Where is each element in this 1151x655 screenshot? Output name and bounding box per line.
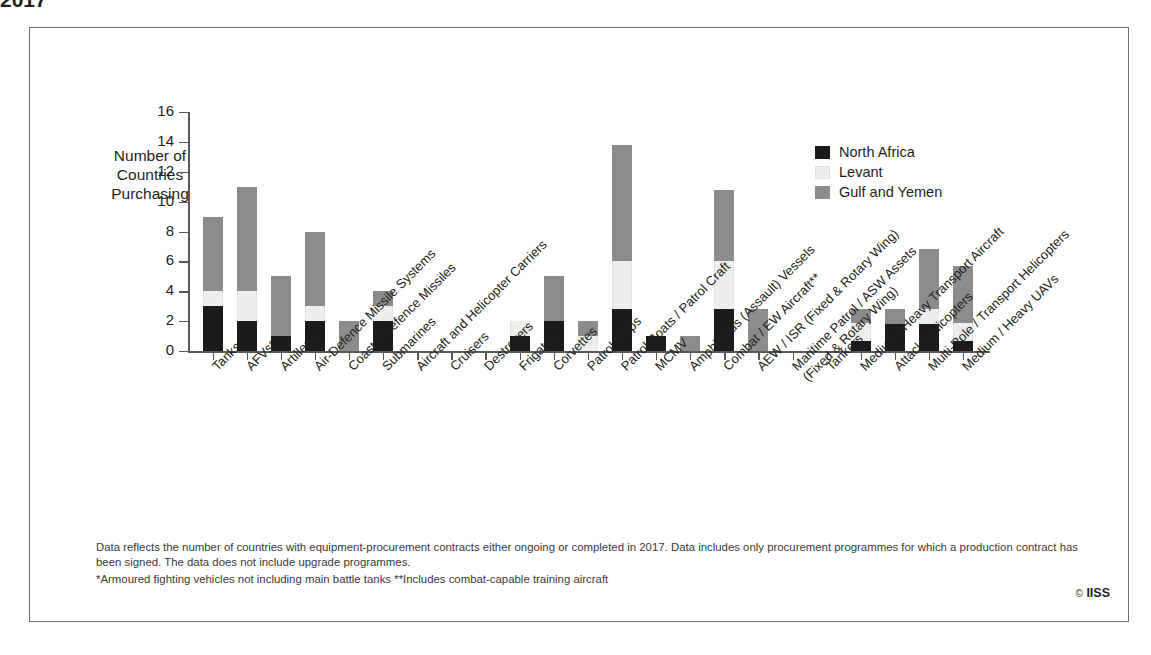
footnotes-block: Data reflects the number of countries wi… — [96, 540, 1106, 587]
y-axis-tick-label: 6 — [144, 251, 174, 268]
y-axis-tick-mark — [179, 232, 188, 233]
bar-column[interactable] — [237, 187, 257, 351]
bar-column[interactable] — [271, 276, 291, 351]
footnote-line-1: Data reflects the number of countries wi… — [96, 540, 1106, 570]
y-axis-tick-mark — [179, 112, 188, 113]
legend-swatch-levant — [815, 166, 830, 179]
y-axis-tick-mark — [179, 321, 188, 322]
y-axis-tick-label: 8 — [144, 222, 174, 239]
bar-segment-levant — [237, 291, 257, 321]
copyright-owner: IISS — [1086, 586, 1110, 600]
y-axis-tick-label: 10 — [144, 192, 174, 209]
y-axis-tick-label: 12 — [144, 162, 174, 179]
chart-supertitle: 2017 — [0, 0, 47, 10]
figure-frame: Number of CountriesPurchasing 0246810121… — [29, 27, 1129, 622]
legend-item[interactable]: Levant — [815, 162, 942, 182]
y-axis-tick-label: 0 — [144, 341, 174, 358]
bar-segment-levant — [203, 291, 223, 306]
y-axis-tick-label: 14 — [144, 132, 174, 149]
y-axis-tick-mark — [179, 202, 188, 203]
legend-swatch-gulf-and-yemen — [815, 186, 830, 199]
y-axis-tick-label: 2 — [144, 311, 174, 328]
copyright-symbol: © — [1076, 588, 1083, 599]
chart-legend: North AfricaLevantGulf and Yemen — [815, 142, 942, 202]
bar-segment-gulf-and-yemen — [203, 217, 223, 292]
y-axis-tick-label: 16 — [144, 102, 174, 119]
bar-segment-north-africa — [203, 306, 223, 351]
bar-segment-gulf-and-yemen — [305, 232, 325, 307]
y-axis-tick-mark — [179, 291, 188, 292]
footnote-line-3: *Armoured fighting vehicles not includin… — [96, 572, 1106, 587]
bar-segment-gulf-and-yemen — [612, 145, 632, 262]
bar-segment-gulf-and-yemen — [544, 276, 564, 321]
bar-segment-levant — [305, 306, 325, 321]
bar-segment-gulf-and-yemen — [271, 276, 291, 336]
legend-label: Levant — [839, 164, 883, 180]
bar-column[interactable] — [203, 217, 223, 351]
bar-segment-gulf-and-yemen — [714, 190, 734, 262]
legend-item[interactable]: North Africa — [815, 142, 942, 162]
y-axis-tick-mark — [179, 351, 188, 352]
legend-item[interactable]: Gulf and Yemen — [815, 182, 942, 202]
legend-label: Gulf and Yemen — [839, 184, 942, 200]
bar-segment-gulf-and-yemen — [237, 187, 257, 292]
y-axis-tick-mark — [179, 172, 188, 173]
y-axis-tick-mark — [179, 142, 188, 143]
legend-swatch-north-africa — [815, 146, 830, 159]
bar-segment-levant — [612, 261, 632, 309]
y-axis-tick-mark — [179, 261, 188, 262]
y-axis-tick-label: 4 — [144, 281, 174, 298]
copyright-notice: © IISS — [1076, 586, 1110, 600]
legend-label: North Africa — [839, 144, 915, 160]
